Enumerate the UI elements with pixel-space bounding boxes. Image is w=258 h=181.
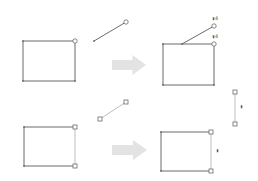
bottom-before-rect-bottom-right-square-handle[interactable] — [73, 164, 77, 168]
top-after-rect-tl-dot-handle — [162, 43, 164, 45]
top-before-rect-top-right-circle-handle[interactable] — [73, 39, 77, 43]
top-before-line-end-circle-handle[interactable] — [124, 20, 128, 24]
top-before-rect-bl-dot-handle — [22, 80, 24, 82]
top-arrow-icon — [112, 55, 146, 75]
top-before-rect-tl-dot-handle — [22, 40, 24, 42]
bottom-before-rect-tl-dot-handle — [23, 126, 25, 128]
bottom-before-connector-line[interactable] — [100, 102, 126, 119]
top-after-connector-line[interactable] — [182, 26, 214, 44]
bottom-after-rect-bottom-right-square-handle[interactable] — [209, 169, 213, 173]
top-after-glue-marker-icon: ▮4 — [212, 33, 218, 39]
top-after-line-start-dot-handle — [181, 43, 183, 45]
bottom-after-glue-marker-icon: ▮ — [240, 103, 243, 109]
top-after-rect-bl-dot-handle — [162, 84, 164, 86]
bottom-before-rect-bl-dot-handle — [23, 165, 25, 167]
top-before-line-start-dot-handle — [93, 40, 95, 42]
bottom-after-rect-tl-dot-handle — [160, 131, 162, 133]
top-after-rect-br-dot-handle — [213, 84, 215, 86]
top-after-glue-marker-icon: ▮4 — [212, 15, 218, 21]
bottom-after-line-start-square-handle[interactable] — [233, 90, 237, 94]
bottom-after-rect-bl-dot-handle — [160, 170, 162, 172]
top-after-rect-top-right-circle-handle[interactable] — [212, 42, 216, 46]
bottom-after-glue-marker-icon: ▮ — [216, 147, 219, 153]
top-before-connector-line[interactable] — [94, 22, 126, 41]
diagram-canvas: ▮4▮4▮▮ — [0, 0, 258, 181]
bottom-after-line-end-square-handle[interactable] — [233, 122, 237, 126]
bottom-after-rect-top-right-square-handle[interactable] — [209, 130, 213, 134]
bottom-before-rect-top-right-square-handle[interactable] — [73, 125, 77, 129]
top-before-rect-br-dot-handle — [74, 80, 76, 82]
bottom-arrow-icon — [112, 140, 147, 160]
top-after-line-end-circle-handle[interactable] — [212, 24, 216, 28]
bottom-before-line-start-square-handle[interactable] — [98, 117, 102, 121]
bottom-before-line-end-square-handle[interactable] — [124, 100, 128, 104]
